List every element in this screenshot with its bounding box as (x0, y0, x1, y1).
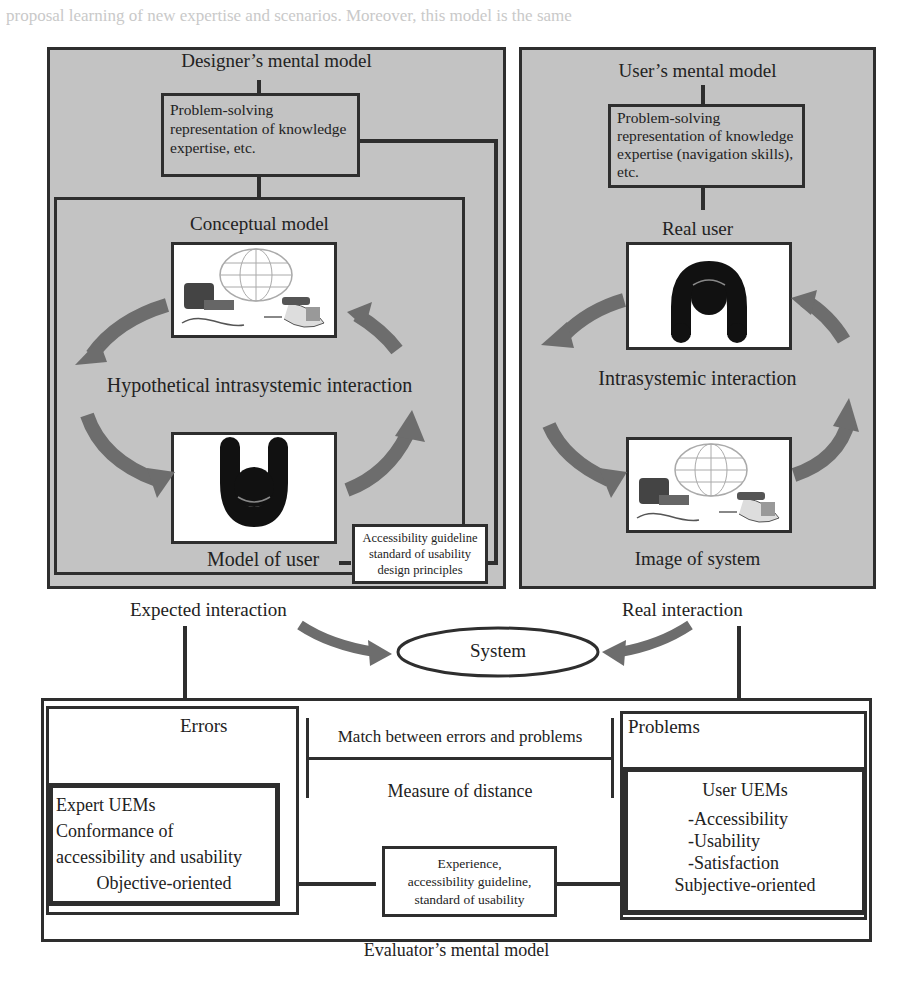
expert-uems-line: Expert UEMs (56, 792, 242, 818)
knowledge-line: Problem-solving (170, 100, 351, 119)
cycle-arrows-designer (47, 240, 507, 540)
knowledge-line: expertise, etc. (170, 138, 351, 157)
knowledge-line: representation of knowledge (170, 119, 351, 138)
match-line (306, 757, 614, 760)
real-user-label: Real user (519, 218, 876, 240)
objective-oriented-label: Objective-oriented (48, 873, 280, 894)
experience-line: accessibility guideline, (385, 873, 554, 891)
user-uems-item: -Satisfaction (688, 852, 788, 874)
knowledge-line: representation of knowledge (617, 127, 796, 145)
user-knowledge-box: Problem-solving representation of knowle… (608, 104, 805, 188)
user-uems-title: User UEMs (623, 780, 867, 801)
user-uems-item: -Accessibility (688, 808, 788, 830)
connector (296, 882, 376, 886)
knowledge-line: expertise (navigation skills), (617, 145, 796, 163)
cycle-arrows-user (519, 260, 879, 560)
connector (701, 188, 705, 210)
guideline-line: design principles (355, 562, 485, 578)
guideline-line: standard of usability (355, 546, 485, 562)
conceptual-model-title: Conceptual model (54, 213, 465, 235)
background-page-text: proposal learning of new expertise and s… (6, 6, 896, 26)
connector (556, 882, 620, 886)
model-of-user-label: Model of user (207, 548, 319, 571)
designer-mental-model-title: Designer’s mental model (47, 50, 506, 72)
connector (257, 177, 261, 199)
expert-uems-line: accessibility and usability (56, 844, 242, 870)
knowledge-line: etc. (617, 163, 796, 181)
real-connector (737, 626, 741, 708)
experience-line: standard of usability (385, 891, 554, 909)
evaluator-mental-model-title: Evaluator’s mental model (41, 940, 872, 961)
measure-of-distance-label: Measure of distance (306, 781, 614, 802)
user-uems-list: -Accessibility -Usability -Satisfaction (688, 808, 788, 874)
connector (339, 561, 351, 565)
experience-box: Experience, accessibility guideline, sta… (382, 846, 557, 917)
user-uems-item: -Usability (688, 830, 788, 852)
connector (360, 139, 498, 143)
errors-label: Errors (180, 715, 227, 737)
experience-line: Experience, (385, 855, 554, 873)
expert-uems-line: Conformance of (56, 818, 242, 844)
subjective-oriented-label: Subjective-oriented (623, 875, 867, 896)
interaction-arrows (0, 600, 902, 690)
connector (701, 85, 705, 105)
problems-label: Problems (628, 716, 700, 738)
expected-connector (183, 626, 187, 708)
designer-knowledge-box: Problem-solving representation of knowle… (161, 93, 360, 177)
expert-uems-text: Expert UEMs Conformance of accessibility… (56, 792, 242, 870)
knowledge-line: Problem-solving (617, 109, 796, 127)
user-mental-model-title: User’s mental model (519, 60, 876, 82)
match-label: Match between errors and problems (306, 727, 614, 747)
